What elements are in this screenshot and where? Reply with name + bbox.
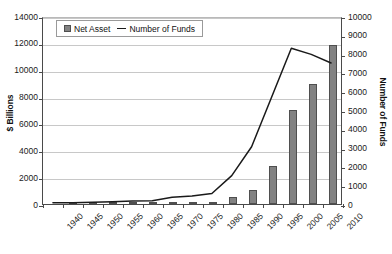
x-tick-label-1995: 1995: [285, 211, 305, 231]
plot-area: [42, 17, 342, 205]
tickmark-right: [341, 131, 345, 132]
tickmark-x: [343, 204, 344, 208]
y-tick-label-left: 8000: [19, 93, 38, 102]
tickmark-right: [341, 37, 345, 38]
y-tick-label-left: 4000: [19, 147, 38, 156]
tickmark-right: [341, 187, 345, 188]
chart-container: $ Billions Number of Funds 1400012000100…: [0, 0, 392, 254]
y-tick-label-right: 7000: [348, 69, 367, 78]
tickmark-right: [341, 150, 345, 151]
y-tick-label-right: 1000: [348, 182, 367, 191]
x-tick-label-1970: 1970: [185, 211, 205, 231]
tickmark-right: [341, 168, 345, 169]
line-series-number-of-funds: [43, 18, 341, 204]
chart-legend: Net Asset Number of Funds: [56, 20, 203, 37]
legend-item-net-asset: Net Asset: [64, 24, 110, 34]
y-tick-label-left: 2000: [19, 174, 38, 183]
y-tick-label-right: 3000: [348, 144, 367, 153]
bar-swatch-icon: [64, 25, 71, 32]
y-tick-label-left: 14000: [14, 13, 38, 22]
y-tick-label-right: 2000: [348, 163, 367, 172]
x-tick-label-1945: 1945: [85, 211, 105, 231]
x-tick-label-1940: 1940: [65, 211, 85, 231]
x-tick-label-1965: 1965: [165, 211, 185, 231]
y-tick-label-right: 4000: [348, 125, 367, 134]
x-axis-tick-labels: 1940194519501955196019651970197519801985…: [42, 205, 342, 254]
x-tick-label-1985: 1985: [245, 211, 265, 231]
tickmark-right: [341, 56, 345, 57]
y-tick-label-right: 5000: [348, 107, 367, 116]
y-tick-label-right: 10000: [348, 13, 372, 22]
funds-polyline: [53, 48, 331, 202]
y-tick-label-right: 8000: [348, 50, 367, 59]
legend-label-number-of-funds: Number of Funds: [129, 24, 195, 34]
y-tick-label-right: 9000: [348, 31, 367, 40]
x-tick-label-2000: 2000: [305, 211, 325, 231]
x-tick-label-1980: 1980: [225, 211, 245, 231]
y-tick-label-right: 0: [348, 201, 353, 210]
y-tick-label-right: 6000: [348, 88, 367, 97]
line-swatch-icon: [117, 28, 126, 29]
y-tick-label-left: 12000: [14, 39, 38, 48]
tickmark-right: [341, 112, 345, 113]
legend-label-net-asset: Net Asset: [74, 24, 110, 34]
tickmark-right: [341, 93, 345, 94]
y-axis-left-tick-labels: 14000120001000080006000400020000: [0, 0, 38, 254]
y-tick-label-left: 10000: [14, 66, 38, 75]
x-tick-label-1960: 1960: [145, 211, 165, 231]
x-tick-label-1990: 1990: [265, 211, 285, 231]
x-tick-label-1955: 1955: [125, 211, 145, 231]
tickmark-right: [341, 18, 345, 19]
x-tick-label-1950: 1950: [105, 211, 125, 231]
y-tick-label-left: 0: [33, 201, 38, 210]
x-tick-label-1975: 1975: [205, 211, 225, 231]
y-tick-label-left: 6000: [19, 120, 38, 129]
legend-item-number-of-funds: Number of Funds: [117, 24, 195, 34]
tickmark-right: [341, 74, 345, 75]
x-tick-label-2005: 2005: [325, 211, 345, 231]
